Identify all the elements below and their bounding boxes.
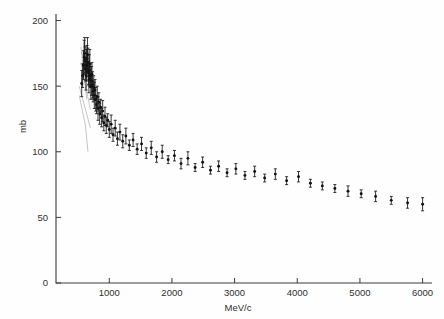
y-tick-label: 0	[43, 277, 48, 288]
data-point	[201, 157, 204, 167]
marker	[167, 158, 170, 161]
marker	[128, 144, 131, 147]
marker	[209, 169, 212, 172]
marker	[406, 202, 409, 205]
data-point	[155, 152, 158, 162]
data-point	[234, 164, 237, 174]
y-tick-label: 150	[32, 81, 48, 92]
data-point	[112, 128, 115, 141]
x-tick-label: 3000	[224, 287, 245, 298]
data-point	[390, 196, 393, 204]
marker	[161, 150, 164, 153]
marker	[374, 195, 377, 198]
marker	[309, 182, 312, 185]
data-point	[186, 152, 189, 165]
marker	[155, 156, 158, 159]
marker	[234, 167, 237, 170]
marker	[173, 154, 176, 157]
marker	[132, 139, 135, 142]
data-point	[347, 186, 350, 196]
marker	[360, 192, 363, 195]
marker	[333, 187, 336, 190]
data-point	[145, 148, 148, 158]
marker	[390, 199, 393, 202]
data-point	[136, 144, 139, 154]
data-point	[263, 174, 266, 182]
y-axis-title: mb	[17, 120, 28, 133]
marker	[150, 146, 153, 149]
data-point	[333, 185, 336, 193]
y-tick-label: 200	[32, 15, 48, 26]
x-tick-label: 5000	[349, 287, 370, 298]
marker	[114, 127, 117, 130]
data-point	[118, 124, 121, 140]
marker	[180, 162, 183, 165]
marker	[263, 177, 266, 180]
y-tick-label: 100	[32, 146, 48, 157]
axis-labels-layer: 050100150200100020003000400050006000MeV/…	[17, 15, 433, 313]
marker	[110, 123, 113, 126]
marker	[297, 175, 300, 178]
data-point	[226, 169, 229, 177]
marker	[121, 140, 124, 143]
data-point	[360, 190, 363, 198]
data-point	[406, 198, 409, 208]
data-point	[194, 164, 197, 172]
marker	[118, 131, 121, 134]
plot-axes	[56, 14, 432, 283]
x-tick-label: 1000	[99, 287, 120, 298]
data-point	[150, 141, 153, 154]
marker	[140, 142, 143, 145]
scatter-plot-canvas: 050100150200100020003000400050006000MeV/…	[0, 0, 444, 319]
data-point	[217, 161, 220, 171]
marker	[194, 166, 197, 169]
marker	[201, 161, 204, 164]
marker	[226, 171, 229, 174]
data-point	[173, 150, 176, 160]
marker	[285, 179, 288, 182]
data-point	[274, 169, 277, 179]
y-tick-label: 50	[37, 212, 48, 223]
data-point	[167, 156, 170, 164]
x-tick-label: 6000	[412, 287, 433, 298]
marker	[253, 170, 256, 173]
marker	[101, 110, 104, 113]
data-point	[253, 166, 256, 176]
data-point	[161, 145, 164, 158]
data-point	[285, 177, 288, 185]
marker	[243, 174, 246, 177]
data-point	[309, 179, 312, 187]
data-point	[209, 166, 212, 174]
data-point	[374, 191, 377, 201]
marker	[186, 157, 189, 160]
x-tick-label: 2000	[161, 287, 182, 298]
marker	[124, 135, 127, 138]
marker	[83, 52, 86, 55]
data-point	[180, 158, 183, 168]
data-point	[140, 137, 143, 150]
data-point	[116, 132, 119, 145]
x-tick-label: 4000	[287, 287, 308, 298]
data-point	[114, 120, 117, 136]
data-point	[321, 182, 324, 190]
chart-figure: 050100150200100020003000400050006000MeV/…	[0, 0, 444, 319]
data-point	[121, 135, 124, 148]
data-points-layer	[80, 38, 424, 211]
x-axis-title: MeV/c	[225, 302, 252, 313]
marker	[217, 165, 220, 168]
marker	[421, 203, 424, 206]
data-point	[124, 128, 127, 144]
axis-spines	[56, 14, 432, 283]
data-point	[243, 171, 246, 179]
data-point	[297, 171, 300, 181]
data-point	[421, 198, 424, 211]
data-point	[128, 140, 131, 150]
marker	[136, 148, 139, 151]
marker	[274, 173, 277, 176]
marker	[145, 152, 148, 155]
marker	[321, 184, 324, 187]
marker	[108, 128, 111, 131]
marker	[347, 190, 350, 193]
data-point	[132, 133, 135, 146]
